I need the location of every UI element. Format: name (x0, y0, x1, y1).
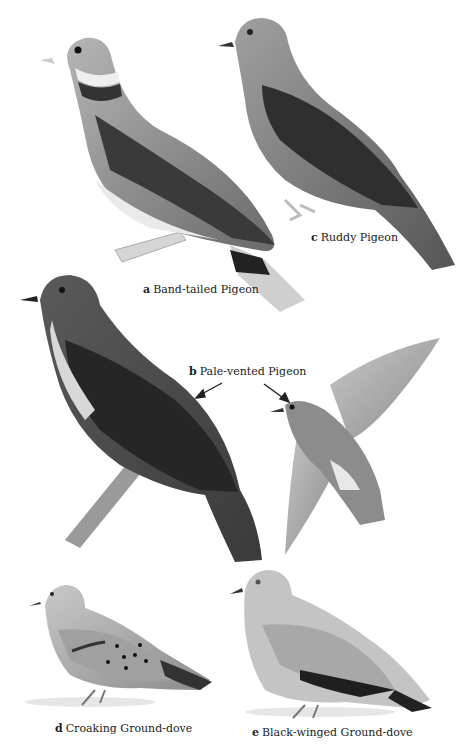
label-arrows (196, 383, 289, 402)
species-name: Black-winged Ground-dove (262, 726, 413, 739)
pale-vented-pigeon-perched-illustration (20, 275, 262, 562)
species-letter: a (143, 283, 150, 296)
species-name: Band-tailed Pigeon (153, 283, 259, 296)
species-name: Ruddy Pigeon (321, 231, 398, 244)
field-guide-plate: aBand-tailed Pigeon cRuddy Pigeon bPale-… (0, 0, 469, 752)
black-winged-ground-dove-illustration (230, 570, 432, 718)
species-letter: e (252, 726, 259, 739)
species-label-a: aBand-tailed Pigeon (143, 283, 259, 296)
species-label-d: dCroaking Ground-dove (55, 722, 192, 735)
species-name: Pale-vented Pigeon (200, 365, 307, 378)
species-label-b: bPale-vented Pigeon (189, 365, 306, 378)
species-letter: b (189, 365, 197, 378)
croaking-ground-dove-illustration (25, 585, 212, 707)
species-letter: c (311, 231, 318, 244)
species-letter: d (55, 722, 63, 735)
species-label-c: cRuddy Pigeon (311, 231, 398, 244)
species-label-e: eBlack-winged Ground-dove (252, 726, 413, 739)
species-name: Croaking Ground-dove (66, 722, 193, 735)
